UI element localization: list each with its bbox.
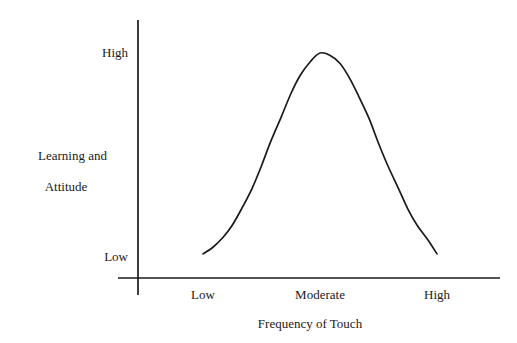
x-axis-tick-label-high: High [377,287,497,302]
x-axis-title: Frequency of Touch [190,316,430,331]
chart-figure: High Low Learning and Attitude Low Moder… [0,0,517,343]
y-axis-title-line1: Learning and [38,148,107,163]
y-axis-tick-label-high: High [8,45,128,60]
x-axis-tick-label-moderate: Moderate [260,287,380,302]
x-axis-tick-label-low: Low [143,287,263,302]
y-axis-title-line2: Attitude [4,179,128,194]
y-axis-title: Learning and Attitude [4,133,128,225]
data-curve-line [203,53,437,254]
y-axis-tick-label-low: Low [8,249,128,264]
